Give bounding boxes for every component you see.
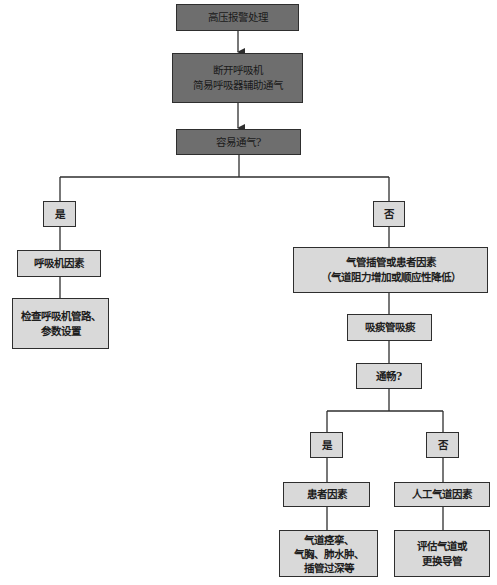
node-ventilator-factor: 呼吸机因素 xyxy=(17,250,101,277)
node-disconnect-ventilator: 断开呼吸机 简易呼吸器辅助通气 xyxy=(172,53,303,103)
label-no-sub: 否 xyxy=(426,432,459,458)
label-yes-sub: 是 xyxy=(310,432,343,458)
node-evaluate-airway: 评估气道或 更换导管 xyxy=(394,530,490,577)
node-suction: 吸痰管吸痰 xyxy=(347,314,432,341)
node-patient-factor: 患者因素 xyxy=(283,482,370,507)
label-yes-left: 是 xyxy=(43,201,76,227)
node-tube-or-patient-factor: 气管插管或患者因素 （气道阻力增加或顺应性降低） xyxy=(293,247,488,293)
node-check-circuit: 检查呼吸机管路、 参数设置 xyxy=(12,298,109,349)
node-patient-causes: 气道痉挛、 气胸、肺水肿、 插管过深等 xyxy=(279,530,378,577)
label-no-right: 否 xyxy=(373,201,405,227)
node-artificial-airway-factor: 人工气道因素 xyxy=(394,482,490,507)
decision-easy-ventilation: 容易通气? xyxy=(176,129,301,155)
node-high-pressure-alarm: 高压报警处理 xyxy=(176,4,299,31)
decision-patent: 通畅? xyxy=(356,363,422,389)
